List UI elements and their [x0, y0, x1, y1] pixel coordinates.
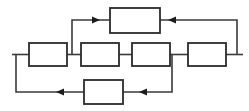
- arrow-left-icon: [56, 89, 64, 96]
- block-bottom-rect[interactable]: [84, 80, 123, 104]
- block-mid-4[interactable]: [188, 43, 226, 66]
- block-mid-4-rect[interactable]: [188, 43, 226, 66]
- block-bottom[interactable]: [84, 80, 123, 104]
- arrow-left-icon: [168, 17, 176, 24]
- block-layer: [29, 8, 226, 104]
- block-diagram-canvas: [0, 0, 249, 111]
- block-top[interactable]: [110, 8, 160, 33]
- block-diagram-svg: [0, 0, 249, 111]
- arrow-right-icon: [92, 17, 100, 24]
- block-mid-2-rect[interactable]: [81, 43, 119, 66]
- block-mid-1[interactable]: [29, 43, 67, 66]
- arrow-left-icon: [139, 89, 147, 96]
- block-mid-3-rect[interactable]: [132, 43, 170, 66]
- block-mid-2[interactable]: [81, 43, 119, 66]
- block-mid-1-rect[interactable]: [29, 43, 67, 66]
- block-mid-3[interactable]: [132, 43, 170, 66]
- block-top-rect[interactable]: [110, 8, 160, 33]
